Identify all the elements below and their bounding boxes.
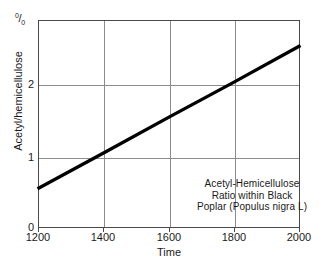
annotation-line-3: Poplar (Populus nigra L) (176, 201, 328, 213)
x-tick-label-1600: 1600 (147, 231, 191, 243)
y-tick-label-1: 1 (8, 152, 34, 163)
x-tick-label-1200: 1200 (16, 231, 60, 243)
x-tick-label-1400: 1400 (81, 231, 125, 243)
chart-figure: 0/0 Acetyl/hemicellulose 2 1 0 1200 1400… (0, 0, 336, 264)
y-axis-tick-labels: 2 1 0 (6, 0, 34, 264)
x-tick-label-1800: 1800 (212, 231, 256, 243)
data-line-acetyl-ratio (39, 46, 299, 187)
chart-annotation: Acetyl-Hemicellulose Ratio within Black … (176, 178, 328, 213)
x-tick-label-2000: 2000 (277, 231, 321, 243)
x-axis-title: Time (38, 246, 300, 258)
y-tick-label-2: 2 (8, 79, 34, 90)
x-axis-tick-labels: 1200 1400 1600 1800 2000 (0, 231, 336, 247)
annotation-line-2: Ratio within Black (176, 190, 328, 202)
annotation-line-1: Acetyl-Hemicellulose (176, 178, 328, 190)
